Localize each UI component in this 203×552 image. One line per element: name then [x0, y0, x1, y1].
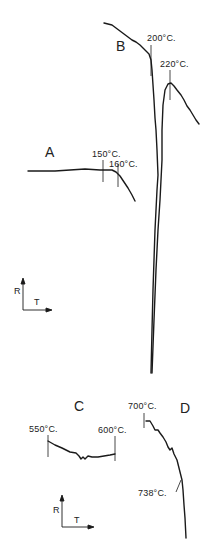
curve-label-a: A	[45, 144, 54, 160]
axis-label-t-upper: T	[34, 297, 40, 307]
axis-label-r-lower: R	[53, 505, 60, 515]
curve-label-d: D	[180, 400, 190, 416]
annotation-220c: 220°C.	[160, 59, 189, 69]
curve-d	[146, 421, 186, 538]
curve-b-return	[152, 83, 199, 373]
annotation-700c: 700°C.	[128, 401, 157, 411]
curve-a	[28, 169, 135, 201]
curve-label-b: B	[116, 38, 125, 54]
annotation-600c: 600°C.	[98, 425, 127, 435]
annotation-200c: 200°C.	[147, 33, 176, 43]
axis-label-t-lower: T	[74, 515, 80, 525]
curve-b	[104, 23, 158, 373]
annotation-550c: 550°C.	[29, 424, 58, 434]
annotation-160c: 160°C.	[109, 159, 138, 169]
axis-label-r-upper: R	[14, 286, 21, 296]
tick-738	[176, 480, 181, 492]
annotation-738c: 738°C.	[138, 488, 167, 498]
figure-canvas	[0, 0, 203, 552]
annotation-150c: 150°C.	[92, 149, 121, 159]
curve-label-c: C	[74, 398, 84, 414]
curve-c	[48, 441, 115, 459]
